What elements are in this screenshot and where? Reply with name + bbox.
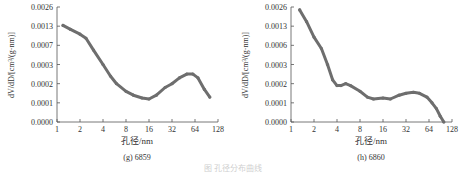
y-tick-label: 0.0000 <box>265 118 287 127</box>
chart-figure: 0.00000.00010.00020.00030.00070.00130.00… <box>0 0 466 176</box>
y-tick-label: 0.0026 <box>265 3 287 12</box>
panel-caption: (h) 6860 <box>357 153 384 162</box>
data-point <box>404 92 407 95</box>
data-point <box>439 115 442 118</box>
data-point <box>132 94 135 97</box>
chart-panel-h: 0.00000.00010.00020.00030.00060.00130.00… <box>241 3 458 162</box>
data-point <box>430 101 433 104</box>
data-point <box>147 97 150 100</box>
x-tick-label: 64 <box>425 125 433 134</box>
data-point <box>84 37 87 40</box>
x-tick-label: 1 <box>55 125 59 134</box>
data-point <box>155 94 158 97</box>
x-axis-ticks: 1248163264128 <box>55 119 224 134</box>
data-point <box>331 78 334 81</box>
data-point <box>191 73 194 76</box>
y-tick-label: 0.0007 <box>31 41 53 50</box>
x-tick-label: 4 <box>335 125 339 134</box>
x-tick-label: 8 <box>124 125 128 134</box>
data-point <box>335 84 338 87</box>
y-tick-label: 0.0013 <box>31 22 53 31</box>
x-tick-label: 128 <box>212 125 224 134</box>
data-point <box>185 73 188 76</box>
x-tick-label: 128 <box>446 125 458 134</box>
data-point <box>109 74 112 77</box>
y-axis-ticks: 0.00000.00010.00020.00030.00060.00130.00… <box>265 3 294 127</box>
data-point <box>442 120 445 123</box>
data-point <box>344 82 347 85</box>
y-tick-label: 0.0013 <box>265 22 287 31</box>
data-point <box>425 96 428 99</box>
y-tick-label: 0.0003 <box>265 61 287 70</box>
x-tick-label: 32 <box>168 125 176 134</box>
x-axis-ticks: 1248163264128 <box>289 119 458 134</box>
data-point <box>101 63 104 66</box>
data-point <box>372 97 375 100</box>
y-tick-label: 0.0002 <box>31 80 53 89</box>
data-point <box>69 28 72 31</box>
y-tick-label: 0.0001 <box>265 99 287 108</box>
series-line <box>300 10 444 122</box>
x-tick-label: 1 <box>289 125 293 134</box>
data-point <box>398 94 401 97</box>
y-tick-label: 0.0026 <box>31 3 53 12</box>
data-point <box>208 96 211 99</box>
x-tick-label: 4 <box>101 125 105 134</box>
x-tick-label: 2 <box>78 125 82 134</box>
x-tick-label: 8 <box>358 125 362 134</box>
data-point <box>412 91 415 94</box>
x-tick-label: 16 <box>145 125 153 134</box>
data-point <box>358 90 361 93</box>
data-point <box>92 49 95 52</box>
data-point <box>141 96 144 99</box>
data-point <box>435 107 438 110</box>
data-point <box>418 92 421 95</box>
data-series-6860 <box>298 8 445 123</box>
figure: 0.00000.00010.00020.00030.00070.00130.00… <box>0 0 466 176</box>
data-point <box>61 24 64 27</box>
data-point <box>320 47 323 50</box>
y-tick-label: 0.0003 <box>31 61 53 70</box>
data-point <box>170 82 173 85</box>
data-point <box>349 84 352 87</box>
figure-caption: 图 孔径分布曲线 <box>0 162 466 173</box>
x-tick-label: 32 <box>402 125 410 134</box>
y-axis-label: dV/dD/[cm³/(g·nm)] <box>241 32 250 98</box>
y-tick-label: 0.0000 <box>31 118 53 127</box>
x-tick-label: 64 <box>191 125 199 134</box>
data-point <box>196 76 199 79</box>
data-point <box>178 76 181 79</box>
data-point <box>312 36 315 39</box>
data-point <box>326 63 329 66</box>
data-point <box>305 20 308 23</box>
data-point <box>124 90 127 93</box>
chart-panel-g: 0.00000.00010.00020.00030.00070.00130.00… <box>7 3 224 162</box>
y-axis-ticks: 0.00000.00010.00020.00030.00070.00130.00… <box>31 3 60 127</box>
y-tick-label: 0.0006 <box>265 41 287 50</box>
y-axis-label: dV/dD/[cm³/(g·nm)] <box>7 32 16 98</box>
data-series-6859 <box>61 24 211 101</box>
data-point <box>203 88 206 91</box>
x-tick-label: 16 <box>379 125 387 134</box>
y-tick-label: 0.0001 <box>31 99 53 108</box>
x-axis-label: 孔径/nm <box>121 135 153 146</box>
data-point <box>339 84 342 87</box>
data-point <box>389 97 392 100</box>
y-tick-label: 0.0002 <box>265 80 287 89</box>
data-point <box>164 86 167 89</box>
data-point <box>298 8 301 11</box>
data-point <box>78 33 81 36</box>
data-point <box>381 96 384 99</box>
data-point <box>366 96 369 99</box>
x-tick-label: 2 <box>312 125 316 134</box>
series-line <box>63 25 210 99</box>
data-point <box>115 82 118 85</box>
x-axis-label: 孔径/nm <box>355 135 387 146</box>
panel-caption: (g) 6859 <box>123 153 150 162</box>
